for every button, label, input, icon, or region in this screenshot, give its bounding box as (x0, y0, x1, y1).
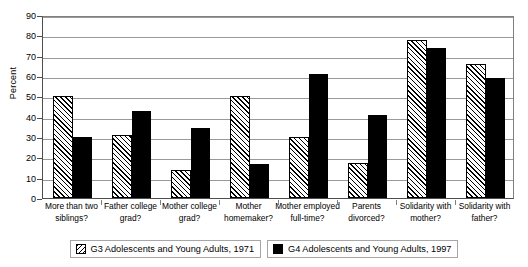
bar (230, 96, 250, 198)
legend-item[interactable]: G3 Adolescents and Young Adults, 1971 (70, 240, 261, 258)
y-tick-mark (37, 199, 42, 200)
y-tick-label: 40 (0, 113, 36, 122)
bar (132, 111, 152, 198)
legend-label: G4 Adolescents and Young Adults, 1997 (288, 244, 451, 254)
bar (309, 74, 329, 198)
y-axis-ticks: 0102030405060708090 (0, 16, 42, 199)
bar (486, 78, 506, 198)
y-tick-label: 60 (0, 73, 36, 82)
x-axis-labels: More than twosiblings?Father collegegrad… (42, 201, 514, 235)
bar (53, 96, 73, 198)
y-tick-label: 20 (0, 154, 36, 163)
bar-chart: Percent 0102030405060708090 More than tw… (0, 0, 528, 267)
bar (191, 128, 211, 198)
y-tick-label: 10 (0, 174, 36, 183)
bar (348, 163, 368, 198)
y-tick-label: 90 (0, 12, 36, 21)
bar (466, 64, 486, 198)
legend-swatch-icon (273, 244, 283, 254)
plot-area (42, 16, 514, 199)
legend-label: G3 Adolescents and Young Adults, 1971 (91, 244, 254, 254)
bar (73, 137, 93, 198)
y-tick-label: 0 (0, 195, 36, 204)
bar (407, 40, 427, 198)
x-axis-category-label: Solidarity withfather? (449, 201, 520, 224)
bar (250, 164, 270, 198)
bar (368, 115, 388, 198)
bar (427, 48, 447, 198)
y-tick-label: 30 (0, 134, 36, 143)
bar-series-container (43, 17, 513, 198)
x-label-line: father? (449, 213, 520, 225)
bar (171, 170, 191, 198)
bar (112, 135, 132, 198)
legend-swatch-icon (76, 244, 86, 254)
chart-legend: G3 Adolescents and Young Adults, 1971G4 … (0, 239, 528, 259)
y-tick-label: 50 (0, 93, 36, 102)
legend-item[interactable]: G4 Adolescents and Young Adults, 1997 (267, 240, 458, 258)
y-tick-label: 70 (0, 52, 36, 61)
y-tick-label: 80 (0, 32, 36, 41)
x-label-line: Solidarity with (449, 201, 520, 213)
bar (289, 137, 309, 198)
